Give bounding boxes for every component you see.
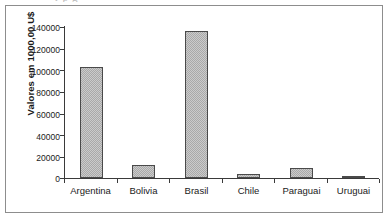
bar-argentina [80,67,103,178]
y-tick-label-100000: 100000 [14,68,60,77]
x-tick-label-uruguai: Uruguai [326,185,381,196]
bar-brasil [185,31,208,178]
y-tick-label-60000: 60000 [14,111,60,120]
y-tick-label-80000: 80000 [14,89,60,98]
clipped-caption-text: r p g [55,0,355,2]
bar-bolivia [132,165,155,178]
y-tick-label-0: 0 [14,175,60,184]
bar-chile [237,174,260,178]
bar-uruguai [342,176,365,178]
x-tick-label-argentina: Argentina [63,185,118,196]
bar-series [64,6,379,214]
x-tick-label-brasil: Brasil [169,185,224,196]
x-tick-label-paraguai: Paraguai [274,185,329,196]
plot-area: Valores em 1000,00 U$ 140000 120000 1000… [6,6,384,214]
x-tick-label-chile: Chile [221,185,276,196]
bar-paraguai [290,168,313,178]
x-tick-label-bolivia: Bolivia [116,185,171,196]
x-tick-mark-6 [379,179,380,183]
y-tick-label-120000: 120000 [14,46,60,55]
x-axis-tick-labels: Argentina Bolivia Brasil Chile Paraguai … [64,185,379,201]
y-tick-label-140000: 140000 [14,24,60,33]
figure-container: r p g Valores em 1000,00 U$ 140000 12000… [0,0,389,219]
y-axis-tick-labels: 140000 120000 100000 80000 60000 40000 2… [14,6,60,214]
y-tick-label-20000: 20000 [14,154,60,163]
chart-frame: Valores em 1000,00 U$ 140000 120000 1000… [5,5,383,213]
y-tick-label-40000: 40000 [14,133,60,142]
